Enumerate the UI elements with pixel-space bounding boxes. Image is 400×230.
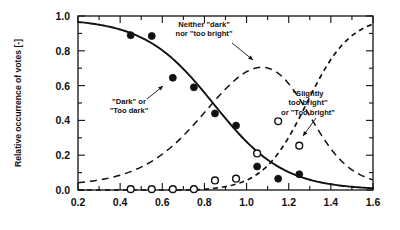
y-axis-title: Relative occurrence of votes [-] — [13, 39, 23, 167]
annotation-line: Neither "dark" — [178, 20, 230, 29]
data-point-open — [296, 142, 303, 149]
chart-canvas: Relative occurrence of votes [-] 0.20.40… — [0, 0, 400, 230]
annotation-line: "Dark" or — [112, 97, 146, 106]
data-point-filled — [254, 163, 261, 170]
y-tick-label: 0.2 — [55, 149, 70, 161]
annotation-line: or "Too bright" — [281, 108, 335, 117]
x-tick-label: 1.4 — [324, 196, 339, 208]
data-point-filled — [169, 74, 176, 81]
data-point-filled — [275, 175, 282, 182]
x-tick-label: 0.2 — [71, 196, 86, 208]
annotation-line: "Slightly — [292, 89, 324, 98]
chart-figure: Relative occurrence of votes [-] 0.20.40… — [0, 0, 400, 230]
data-point-open — [169, 186, 176, 193]
y-tick-label: 0.0 — [55, 184, 70, 196]
x-tick-label: 0.8 — [197, 196, 212, 208]
data-point-filled — [233, 122, 240, 129]
data-point-filled — [190, 84, 197, 91]
y-tick-label: 1.0 — [55, 10, 70, 22]
data-point-open — [275, 118, 282, 125]
x-tick-label: 0.4 — [113, 196, 128, 208]
y-axis-title-text: Relative occurrence of votes [-] — [13, 39, 23, 167]
y-tick-label: 0.4 — [55, 114, 70, 126]
x-tick-label: 1.2 — [281, 196, 296, 208]
data-point-filled — [127, 32, 134, 39]
data-point-filled — [211, 110, 218, 117]
data-point-open — [190, 186, 197, 193]
data-point-open — [212, 177, 219, 184]
data-point-open — [254, 150, 261, 157]
y-tick-label: 0.8 — [55, 45, 70, 57]
y-tick-label: 0.6 — [55, 80, 70, 92]
x-tick-label: 0.6 — [155, 196, 170, 208]
data-point-open — [148, 186, 155, 193]
x-tick-label: 1.6 — [366, 196, 381, 208]
annotation-line: nor "too bright" — [176, 29, 233, 38]
x-tick-label: 1.0 — [239, 196, 254, 208]
data-point-open — [127, 186, 134, 193]
data-point-filled — [148, 33, 155, 40]
data-point-filled — [296, 171, 303, 178]
data-point-open — [233, 175, 240, 182]
annotation-line: too bright" — [288, 98, 327, 107]
annotation-line: "Too dark" — [110, 106, 149, 115]
